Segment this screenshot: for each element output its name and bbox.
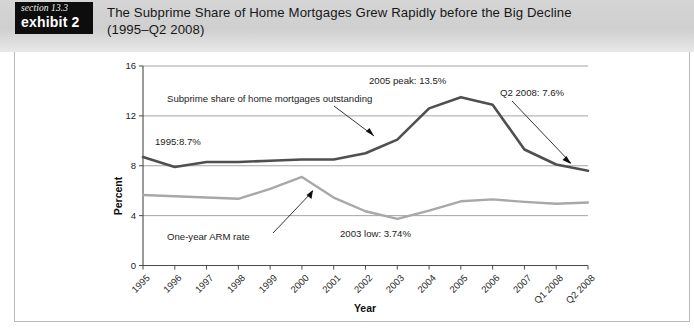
annotation-peak-label: 2005 peak: 13.5% [369,75,447,86]
x-axis-ticks: 1995199619971998199920002001200220032004… [129,266,597,306]
x-tick-label: 2003 [383,272,406,295]
exhibit-page: section 13.3 exhibit 2 The Subprime Shar… [0,0,694,332]
y-axis-title: Percent [112,176,124,215]
series-line [143,97,588,171]
x-tick-label: 2006 [479,272,502,295]
arrowhead-end-value [563,156,572,164]
x-tick-label: 1998 [225,272,248,295]
annotation-subprime-series-label: Subprime share of home mortgages outstan… [167,93,372,104]
y-tick-label: 4 [131,210,136,221]
x-tick-label: 1996 [161,272,184,295]
arrowhead-arm-series [307,190,314,199]
data-series [143,97,588,219]
arrow-arm-series [273,191,313,233]
x-tick-label: 2000 [288,272,311,295]
x-axis-title: Year [354,302,376,314]
annotation-arm-series-label: One-year ARM rate [167,231,250,242]
x-tick-label: 1995 [129,272,152,295]
x-tick-label: Q1 2008 [532,272,566,306]
x-tick-label: 2002 [352,272,375,295]
line-chart: 0481216 19951996199719981999200020012002… [0,0,694,332]
annotation-end-value-label: Q2 2008: 7.6% [500,87,564,98]
y-tick-label: 16 [125,60,136,71]
series-line [143,177,588,219]
x-tick-label: 1999 [256,272,279,295]
y-tick-label: 12 [125,110,136,121]
x-tick-label: 2001 [320,272,343,295]
x-tick-label: 1997 [193,272,216,295]
x-tick-label: Q2 2008 [563,272,597,306]
y-tick-label: 8 [131,160,136,171]
annotation-arm-low-label: 2003 low: 3.74% [340,228,411,239]
y-axis-ticks: 0481216 [125,60,143,271]
y-tick-label: 0 [131,260,136,271]
x-tick-label: 2004 [415,272,438,295]
arrowhead-subprime-series [366,128,374,136]
annotation-start-value-label: 1995:8.7% [155,136,201,147]
arrow-end-value [512,101,571,163]
x-tick-label: 2007 [511,272,534,295]
x-tick-label: 2005 [447,272,470,295]
